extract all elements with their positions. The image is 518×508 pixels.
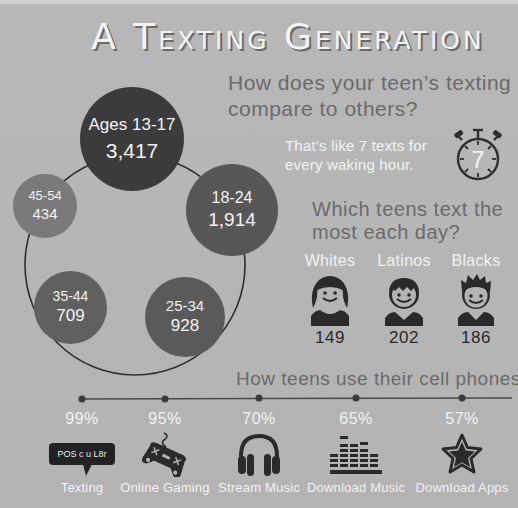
usage-item-download-apps: 57% Download Apps: [407, 410, 517, 495]
teen-group-blacks: Blacks 186: [436, 252, 516, 348]
usage-heading: How teens use their cell phones.: [236, 368, 518, 390]
age-circle-45-54: 45-54 434: [13, 174, 77, 238]
speech-bubble-icon: POS c u L8r: [49, 443, 114, 465]
usage-pct: 65%: [301, 410, 411, 430]
teen-group-label: Whites: [290, 252, 370, 270]
boy-avatar-icon: [381, 270, 427, 326]
teen-group-label: Latinos: [364, 252, 444, 270]
age-label: 35-44: [53, 289, 89, 304]
age-label: 18-24: [212, 189, 253, 207]
stopwatch-icon: 7: [452, 126, 504, 184]
svg-text:7: 7: [471, 146, 484, 173]
texts-per-hour-stat: That’s like 7 texts for every waking hou…: [285, 136, 445, 174]
usage-label: Download Apps: [407, 480, 517, 495]
gamepad-icon: [140, 431, 190, 477]
age-label: Ages 13-17: [89, 116, 176, 135]
age-value: 1,914: [208, 210, 256, 231]
equalizer-icon: [328, 432, 384, 476]
usage-pct: 70%: [204, 410, 314, 430]
age-value: 709: [56, 307, 84, 326]
usage-timeline: [0, 393, 518, 405]
headphones-icon: [236, 432, 282, 476]
bubble-text: POS c u L8r: [57, 449, 106, 459]
age-circle-25-34: 25-34 928: [145, 277, 225, 357]
teen-group-value: 149: [290, 328, 370, 348]
age-value: 928: [171, 317, 199, 336]
usage-label: Download Music: [301, 480, 411, 495]
usage-item-stream-music: 70% Stream Music: [204, 410, 314, 495]
age-value: 434: [32, 206, 57, 223]
age-circle-18-24: 18-24 1,914: [186, 164, 278, 256]
girl-avatar-icon: [307, 270, 353, 326]
age-label: 45-54: [28, 189, 61, 203]
usage-pct: 57%: [407, 410, 517, 430]
star-icon: [440, 432, 484, 476]
usage-label: Stream Music: [204, 480, 314, 495]
ethnicity-question: Which teens text the most each day?: [312, 198, 518, 244]
age-question: How does your teen’s texting compare to …: [228, 70, 518, 122]
teen-group-value: 186: [436, 328, 516, 348]
boy-spiky-avatar-icon: [453, 270, 499, 326]
usage-item-download-music: 65% Download Music: [301, 410, 411, 495]
infographic: A Texting Generation Ages 13-17 3,417 18…: [0, 0, 518, 508]
teen-group-whites: Whites 149: [290, 252, 370, 348]
teen-group-value: 202: [364, 328, 444, 348]
age-value: 3,417: [106, 139, 159, 162]
age-circle-13-17: Ages 13-17 3,417: [80, 87, 184, 191]
teen-group-latinos: Latinos 202: [364, 252, 444, 348]
teen-group-label: Blacks: [436, 252, 516, 270]
age-circle-35-44: 35-44 709: [34, 271, 107, 344]
age-label: 25-34: [166, 298, 204, 315]
